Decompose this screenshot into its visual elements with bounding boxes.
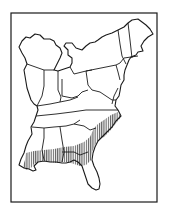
eastern-us-range-map bbox=[0, 0, 171, 214]
